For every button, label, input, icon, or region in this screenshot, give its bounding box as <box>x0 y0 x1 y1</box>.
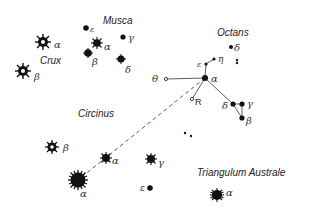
star-label: β <box>91 56 98 67</box>
star-label: α <box>80 188 87 199</box>
star-octans-theta <box>164 77 167 80</box>
star-label: ε <box>90 25 94 34</box>
star-octans-delta <box>229 45 233 49</box>
star-circinus-gamma <box>145 153 157 165</box>
constellation-label-circinus: Circinus <box>78 108 114 119</box>
star-label: β <box>33 71 40 82</box>
star-label: α <box>54 39 61 50</box>
star-label: η <box>218 54 224 64</box>
star-label: γ <box>247 98 253 109</box>
star-label: γ <box>158 157 164 168</box>
star-musca-delta <box>116 54 126 64</box>
star-octans-gamma <box>239 101 244 106</box>
star-circinus-alpha <box>100 152 112 164</box>
star-octans-beta <box>239 115 244 120</box>
octans-line-theta-alpha <box>166 78 205 79</box>
star-octans-pair-top <box>236 59 238 61</box>
star-crux-alpha <box>35 34 51 50</box>
constellation-label-triangulum-australe: Triangulum Australe <box>197 167 286 178</box>
star-field-2 <box>190 135 192 137</box>
star-tra-alpha <box>210 188 224 202</box>
star-label: ε <box>140 183 145 193</box>
star-label: δ <box>234 42 240 53</box>
star-label: α <box>112 155 119 166</box>
star-octans-r <box>190 97 193 100</box>
star-octans-alpha <box>202 75 208 81</box>
star-circinus-beta <box>45 140 59 154</box>
star-label: θ <box>152 73 158 84</box>
star-musca-gamma <box>120 34 125 39</box>
star-label: δ <box>125 64 131 75</box>
star-musca-alpha <box>91 37 103 49</box>
star-label: R <box>195 97 202 107</box>
octans-line-alpha-r <box>192 78 205 99</box>
star-label: δ <box>222 100 228 111</box>
star-chart: Musca Crux Octans Circinus Triangulum Au… <box>0 0 321 216</box>
star-field-1 <box>184 132 186 134</box>
star-musca-epsilon <box>83 25 89 31</box>
star-label: α <box>104 41 111 52</box>
star-crux-beta <box>15 63 31 79</box>
dashed-pointer-line <box>78 78 205 180</box>
star-octans-pair-bottom <box>236 62 238 64</box>
star-circinus-epsilon <box>147 185 153 191</box>
star-octans-epsilon <box>204 62 207 65</box>
star-label: β <box>62 142 69 153</box>
octans-line-alpha-delta <box>205 78 233 104</box>
star-centaurus-alpha <box>68 170 88 190</box>
star-octans-delta2 <box>230 101 235 106</box>
star-label: β <box>245 115 252 126</box>
star-label: ε <box>197 60 201 69</box>
star-label: α <box>226 187 233 198</box>
constellation-label-octans: Octans <box>217 27 249 38</box>
star-label: α <box>211 73 218 84</box>
constellation-label-crux: Crux <box>40 55 62 66</box>
star-label: γ <box>128 32 134 43</box>
star-octans-eta <box>212 57 215 60</box>
constellation-label-musca: Musca <box>103 15 133 26</box>
